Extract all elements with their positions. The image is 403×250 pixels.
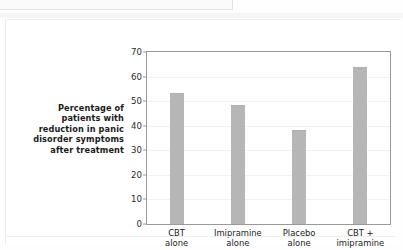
y-tick-mark: [143, 150, 146, 151]
x-axis-labels: CBTaloneImipraminealonePlaceboaloneCBT +…: [146, 228, 391, 248]
x-tick-label-line: alone: [207, 238, 268, 248]
bar-slot: [329, 52, 390, 224]
chart-card: Percentage of patients with reduction in…: [5, 19, 402, 244]
x-tick-label-line: alone: [146, 238, 207, 248]
scan-artifact-band: [0, 13, 403, 18]
y-tick-mark: [143, 52, 146, 53]
y-tick-mark: [143, 199, 146, 200]
scan-artifact-strip: [0, 0, 233, 10]
x-tick-label: Placeboalone: [269, 228, 330, 248]
y-tick-label: 20: [131, 170, 142, 180]
plot-area: 010203040506070: [146, 51, 391, 225]
bar-slot: [147, 52, 208, 224]
y-axis-title-line-5: after treatment: [24, 145, 124, 155]
x-tick-label: CBT +imipramine: [330, 228, 391, 248]
y-tick-label: 40: [131, 121, 142, 131]
figure-container: Percentage of patients with reduction in…: [0, 0, 403, 250]
x-tick-label-line: imipramine: [330, 238, 391, 248]
bar[interactable]: [170, 93, 184, 224]
bar[interactable]: [292, 130, 306, 224]
y-tick-mark: [143, 174, 146, 175]
bar[interactable]: [353, 67, 367, 224]
y-tick-label: 0: [137, 219, 142, 229]
bar-slot: [269, 52, 330, 224]
y-axis-title-line-4: disorder symptoms: [24, 134, 124, 144]
y-tick-label: 60: [131, 72, 142, 82]
y-axis-title-line-1: Percentage of: [24, 103, 124, 113]
y-tick-mark: [143, 101, 146, 102]
y-axis-title-line-2: patients with: [24, 113, 124, 123]
y-tick-mark: [143, 125, 146, 126]
card-bottom-edge: [5, 236, 395, 237]
y-axis-title-line-3: reduction in panic: [24, 124, 124, 134]
y-axis-title: Percentage of patients with reduction in…: [24, 103, 124, 155]
y-tick-mark: [143, 76, 146, 77]
x-tick-label: Imipraminealone: [207, 228, 268, 248]
bar-slot: [208, 52, 269, 224]
bar[interactable]: [231, 105, 245, 224]
x-tick-label-line: alone: [269, 238, 330, 248]
y-tick-label: 10: [131, 194, 142, 204]
bar-series: [147, 52, 390, 224]
y-tick-label: 50: [131, 96, 142, 106]
y-tick-label: 30: [131, 145, 142, 155]
y-tick-mark: [143, 224, 146, 225]
x-tick-label: CBTalone: [146, 228, 207, 248]
y-tick-label: 70: [131, 47, 142, 57]
